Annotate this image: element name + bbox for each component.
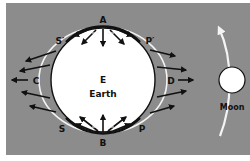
tidal-diagram: A B C D S′ P′ S P E Earth Moon — [0, 0, 250, 161]
diagram-canvas: A B C D S′ P′ S P E Earth Moon — [0, 0, 250, 161]
label-p-prime: P′ — [146, 36, 156, 46]
label-c: C — [33, 76, 40, 86]
label-a: A — [100, 15, 107, 25]
label-s-prime: S′ — [56, 36, 65, 46]
moon-circle — [219, 67, 245, 93]
label-s: S — [59, 124, 65, 134]
label-d: D — [167, 76, 174, 86]
label-moon: Moon — [220, 103, 245, 112]
label-earth: Earth — [89, 89, 116, 99]
label-e: E — [100, 75, 106, 85]
label-b: B — [100, 138, 107, 148]
label-p: P — [139, 124, 146, 134]
